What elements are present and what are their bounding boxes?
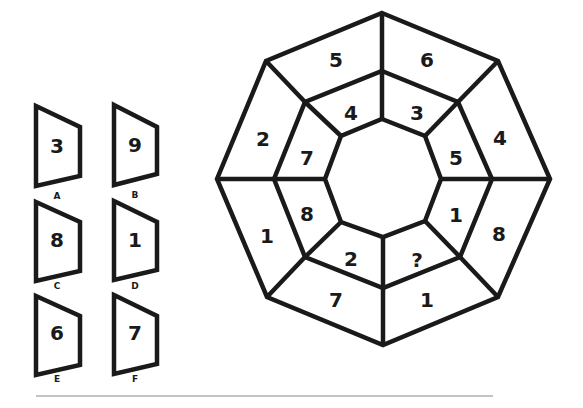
inner-cell-top-left: 4 bbox=[344, 101, 358, 125]
option-value: 1 bbox=[128, 228, 142, 252]
outer-cell-top-right: 6 bbox=[420, 48, 434, 72]
option-label: B bbox=[132, 190, 139, 200]
option-c[interactable]: 8 C bbox=[36, 202, 80, 291]
inner-cell-right-upper: 5 bbox=[449, 146, 463, 170]
spoke-ur-inner bbox=[425, 102, 458, 136]
option-value: 9 bbox=[128, 133, 142, 157]
spoke-ur-outer bbox=[458, 61, 498, 102]
outer-cell-left-lower: 1 bbox=[260, 224, 274, 248]
option-b[interactable]: 9 B bbox=[114, 105, 157, 200]
octagon-puzzle bbox=[217, 13, 550, 345]
option-label: F bbox=[132, 374, 138, 384]
outer-cell-bottom-right: 1 bbox=[420, 288, 434, 312]
option-value: 8 bbox=[50, 228, 64, 252]
option-label: C bbox=[54, 281, 61, 291]
spoke-lr-outer bbox=[460, 257, 498, 297]
outer-cell-top-left: 5 bbox=[329, 48, 343, 72]
outer-cell-bottom-left: 7 bbox=[329, 288, 343, 312]
outer-cell-right-lower: 8 bbox=[492, 222, 506, 246]
option-d[interactable]: 1 D bbox=[114, 201, 157, 291]
outer-cell-right-upper: 4 bbox=[493, 126, 507, 150]
inner-cell-right-lower: 1 bbox=[449, 203, 463, 227]
inner-cell-bottom-left: 2 bbox=[344, 247, 358, 271]
option-value: 3 bbox=[50, 134, 64, 158]
spoke-ll-outer bbox=[267, 257, 305, 297]
option-value: 6 bbox=[50, 321, 64, 345]
option-a[interactable]: 3 A bbox=[36, 106, 80, 201]
option-label: D bbox=[131, 281, 138, 291]
option-label: E bbox=[54, 374, 60, 384]
spoke-ul-inner bbox=[305, 102, 341, 136]
spoke-ll-inner bbox=[305, 222, 341, 257]
outer-cell-left-upper: 2 bbox=[256, 127, 270, 151]
option-value: 7 bbox=[128, 321, 142, 345]
inner-octagon bbox=[325, 119, 441, 237]
inner-cell-bottom-right-unknown: ? bbox=[411, 248, 423, 272]
puzzle-canvas: 3 A 9 B 8 C 1 D 6 E 7 F bbox=[0, 0, 583, 408]
option-label: A bbox=[54, 191, 61, 201]
spoke-ul-outer bbox=[266, 61, 305, 102]
inner-cell-top-right: 3 bbox=[410, 101, 424, 125]
option-e[interactable]: 6 E bbox=[36, 296, 80, 384]
option-f[interactable]: 7 F bbox=[114, 295, 157, 384]
inner-cell-left-upper: 7 bbox=[300, 146, 314, 170]
inner-cell-left-lower: 8 bbox=[300, 202, 314, 226]
